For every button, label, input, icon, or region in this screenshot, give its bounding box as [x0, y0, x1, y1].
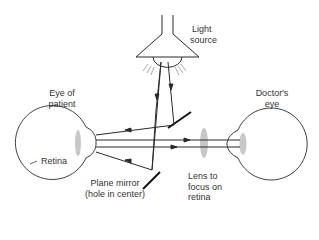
light-source-label: Light source: [190, 24, 217, 45]
doctor-eye-label-line1: Doctor's: [247, 88, 297, 99]
lens-label-line1: Lens to: [188, 171, 222, 182]
patient-eye-label-line2: patient: [37, 99, 87, 110]
light-ray-paths: [96, 62, 240, 170]
lens-label-line2: focus on: [188, 182, 222, 193]
mirror-label-line2: (hole in center): [76, 189, 154, 200]
focus-lens: [200, 128, 208, 158]
doctor-eye-label: Doctor's eye: [247, 88, 297, 109]
light-rays-icon: [143, 64, 186, 75]
light-source-label-line1: Light: [190, 24, 217, 35]
lens-label: Lens to focus on retina: [188, 171, 222, 203]
patient-eye-label-line1: Eye of: [37, 88, 87, 99]
doctor-eye: [227, 108, 307, 180]
patient-eye-label: Eye of patient: [37, 88, 87, 109]
lens-label-line3: retina: [188, 192, 222, 203]
mirror-label: Plane mirror (hole in center): [76, 178, 154, 199]
patient-eye: [15, 105, 96, 179]
light-source-label-line2: source: [190, 35, 217, 46]
retina-label: Retina: [41, 156, 67, 167]
doctor-eye-label-line2: eye: [247, 99, 297, 110]
mirror-label-line1: Plane mirror: [76, 178, 154, 189]
